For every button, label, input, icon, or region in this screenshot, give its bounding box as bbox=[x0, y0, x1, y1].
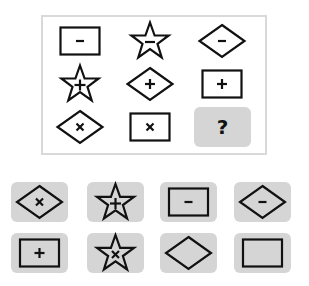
rectangle-plus-icon bbox=[192, 63, 252, 105]
answer-option-2[interactable] bbox=[87, 182, 144, 222]
rectangle-plus-icon bbox=[11, 233, 68, 273]
diamond-plus-icon bbox=[120, 63, 180, 105]
answer-option-4[interactable] bbox=[234, 182, 291, 222]
rectangle-minus-icon bbox=[160, 182, 217, 222]
grid-cell-r2c1 bbox=[50, 63, 110, 105]
missing-cell-question: ? bbox=[194, 107, 251, 147]
diamond-times-icon bbox=[50, 106, 110, 148]
answer-option-3[interactable] bbox=[160, 182, 217, 222]
answer-option-8[interactable] bbox=[234, 233, 291, 273]
grid-cell-r2c2 bbox=[120, 63, 180, 105]
grid-cell-r2c3 bbox=[192, 63, 252, 105]
grid-cell-r1c2 bbox=[120, 20, 180, 62]
answer-option-7[interactable] bbox=[160, 233, 217, 273]
grid-cell-r1c1 bbox=[50, 20, 110, 62]
answer-option-6[interactable] bbox=[87, 233, 144, 273]
answer-option-5[interactable] bbox=[11, 233, 68, 273]
star-minus-icon bbox=[120, 20, 180, 62]
rectangle-minus-icon bbox=[50, 20, 110, 62]
rectangle-empty-icon bbox=[234, 233, 291, 273]
question-mark: ? bbox=[217, 115, 229, 139]
answer-option-1[interactable] bbox=[11, 182, 68, 222]
star-plus-icon bbox=[87, 182, 144, 222]
grid-cell-r3c1 bbox=[50, 106, 110, 148]
grid-cell-r3c2 bbox=[120, 106, 180, 148]
star-times-icon bbox=[87, 233, 144, 273]
diamond-minus-icon bbox=[234, 182, 291, 222]
diamond-empty-icon bbox=[160, 233, 217, 273]
rectangle-times-icon bbox=[120, 106, 180, 148]
grid-cell-r1c3 bbox=[192, 20, 252, 62]
diamond-minus-icon bbox=[192, 20, 252, 62]
diamond-times-icon bbox=[11, 182, 68, 222]
star-plus-icon bbox=[50, 63, 110, 105]
